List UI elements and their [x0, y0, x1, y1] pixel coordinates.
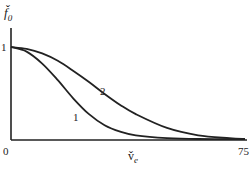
- x-axis-label: v̌e: [128, 150, 138, 165]
- y-tick-1: 1: [1, 42, 7, 53]
- curve-1-label: 1: [73, 112, 79, 123]
- origin-label: 0: [3, 146, 9, 157]
- curve-1: [11, 47, 245, 139]
- curve-2-label: 2: [100, 86, 106, 97]
- curves: [11, 47, 245, 139]
- y-axis-label: f̌0: [4, 6, 12, 23]
- chart: [0, 0, 250, 170]
- curve-2: [11, 47, 245, 139]
- axes: [11, 28, 247, 140]
- y-axis-subscript: 0: [8, 13, 13, 23]
- x-axis-subscript: e: [134, 155, 138, 165]
- x-tick-75: 75: [238, 146, 249, 157]
